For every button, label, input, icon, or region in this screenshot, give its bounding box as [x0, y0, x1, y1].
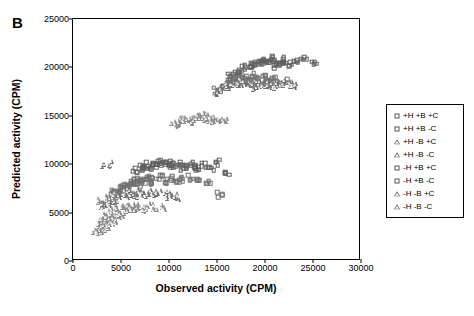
legend-label: +H +B -C [403, 124, 436, 133]
legend-item: +H +B -C [390, 122, 460, 135]
data-point [132, 203, 136, 208]
data-point [170, 174, 175, 179]
data-point [174, 124, 178, 129]
data-point [118, 185, 123, 190]
data-point [146, 191, 150, 196]
legend-label: +H -B +C [403, 137, 436, 146]
y-tick-mark [69, 115, 73, 116]
data-point [196, 112, 200, 117]
data-point [167, 162, 172, 167]
y-tick-mark [69, 19, 73, 20]
data-point [102, 162, 106, 167]
data-point [215, 190, 220, 195]
legend-item: -H +B +C [390, 161, 460, 174]
data-point [250, 62, 255, 67]
legend-square-icon [390, 162, 403, 173]
data-point [134, 181, 139, 186]
data-point [177, 197, 181, 202]
data-point [115, 206, 119, 211]
plot-area: 0500010000150002000025000 05000100001500… [72, 18, 360, 260]
legend-triangle-icon [390, 188, 403, 199]
legend-triangle-icon [390, 201, 403, 212]
data-point [224, 171, 229, 176]
x-tick-mark [313, 259, 314, 263]
data-point [194, 168, 199, 173]
x-tick-mark [169, 259, 170, 263]
data-point [225, 84, 229, 89]
data-point [97, 198, 101, 203]
legend-label: +H +B +C [403, 111, 438, 120]
legend-square-icon [390, 175, 403, 186]
data-point [261, 82, 265, 87]
legend-triangle-icon [390, 136, 403, 147]
data-point [216, 89, 220, 94]
data-point [280, 80, 284, 85]
data-point [188, 177, 193, 182]
data-point [274, 62, 279, 67]
data-point [294, 81, 298, 86]
data-point [104, 193, 108, 198]
legend: +H +B +C+H +B -C+H -B +C+H -B -C-H +B +C… [386, 104, 464, 218]
y-axis-title-text: Predicted activity (CPM) [10, 79, 22, 199]
legend-label: +H -B -C [403, 150, 434, 159]
y-tick-mark [69, 164, 73, 165]
x-tick-mark [265, 259, 266, 263]
data-point [237, 80, 241, 85]
data-point [154, 188, 158, 193]
data-point [117, 192, 121, 197]
data-point [266, 83, 270, 88]
data-point [173, 195, 177, 200]
data-point [133, 208, 137, 213]
data-point [206, 165, 211, 170]
data-point [275, 81, 279, 86]
data-point [164, 181, 169, 186]
data-point [220, 193, 225, 198]
legend-item: +H +B +C [390, 109, 460, 122]
legend-label: -H -B +C [403, 189, 434, 198]
x-tick-mark [121, 259, 122, 263]
data-point [214, 160, 219, 165]
data-point [149, 167, 154, 172]
data-point [242, 79, 246, 84]
data-point [169, 194, 173, 199]
y-tick-mark [69, 67, 73, 68]
legend-label: -H +B +C [403, 163, 436, 172]
data-point [169, 121, 173, 126]
data-point [304, 57, 309, 62]
data-point [91, 230, 95, 235]
x-tick-mark [217, 259, 218, 263]
data-point [182, 119, 186, 124]
data-point [211, 119, 215, 124]
x-tick-mark [361, 259, 362, 263]
data-point [173, 119, 177, 124]
legend-square-icon [390, 123, 403, 134]
y-tick-mark [69, 212, 73, 213]
data-point [108, 163, 112, 168]
data-point [179, 175, 184, 180]
data-point [158, 173, 163, 178]
data-point [112, 193, 116, 198]
data-point [126, 208, 130, 213]
data-point [162, 205, 166, 210]
data-point [155, 207, 159, 212]
legend-label: -H -B -C [403, 202, 432, 211]
data-point [197, 178, 202, 183]
data-point [219, 89, 223, 94]
data-point [280, 61, 285, 66]
data-point [142, 177, 147, 182]
data-point [132, 192, 136, 197]
legend-item: +H -B +C [390, 135, 460, 148]
legend-item: -H +B -C [390, 174, 460, 187]
x-tick-mark [73, 259, 74, 263]
x-axis-title: Observed activity (CPM) [72, 282, 360, 294]
data-point [120, 204, 124, 209]
data-point [255, 85, 259, 90]
data-point [204, 181, 209, 186]
legend-item: +H -B -C [390, 148, 460, 161]
data-point [96, 231, 100, 236]
data-point [105, 213, 109, 218]
legend-item: -H -B +C [390, 187, 460, 200]
data-point [295, 61, 300, 66]
legend-item: -H -B -C [390, 200, 460, 213]
y-axis-title: Predicted activity (CPM) [6, 18, 26, 260]
